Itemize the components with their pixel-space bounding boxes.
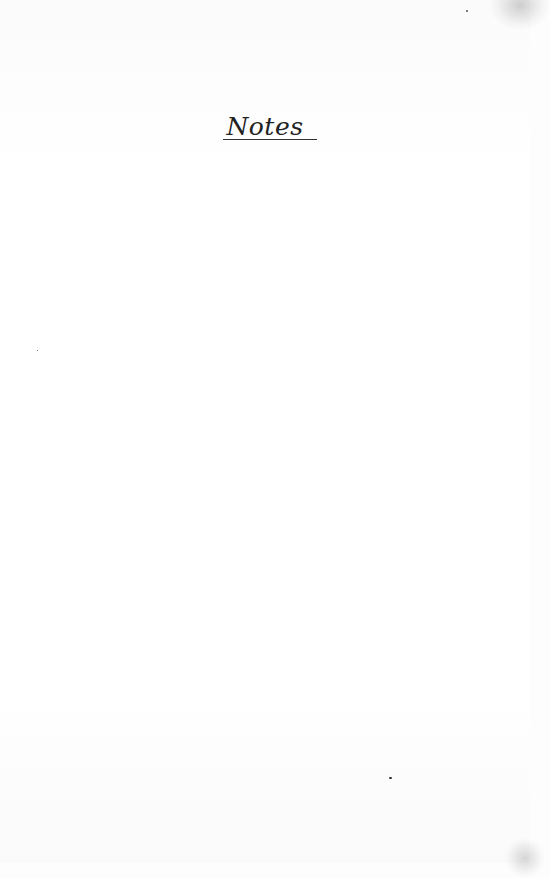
- page-corner-shadow: [490, 0, 550, 30]
- page-corner-shadow: [505, 838, 545, 878]
- page-heading: Notes: [0, 112, 530, 141]
- heading-text: Notes: [226, 112, 303, 141]
- scan-speck: [389, 777, 392, 779]
- scan-speck: [466, 10, 468, 12]
- scan-speck: [37, 350, 38, 351]
- heading-underline: [223, 139, 317, 140]
